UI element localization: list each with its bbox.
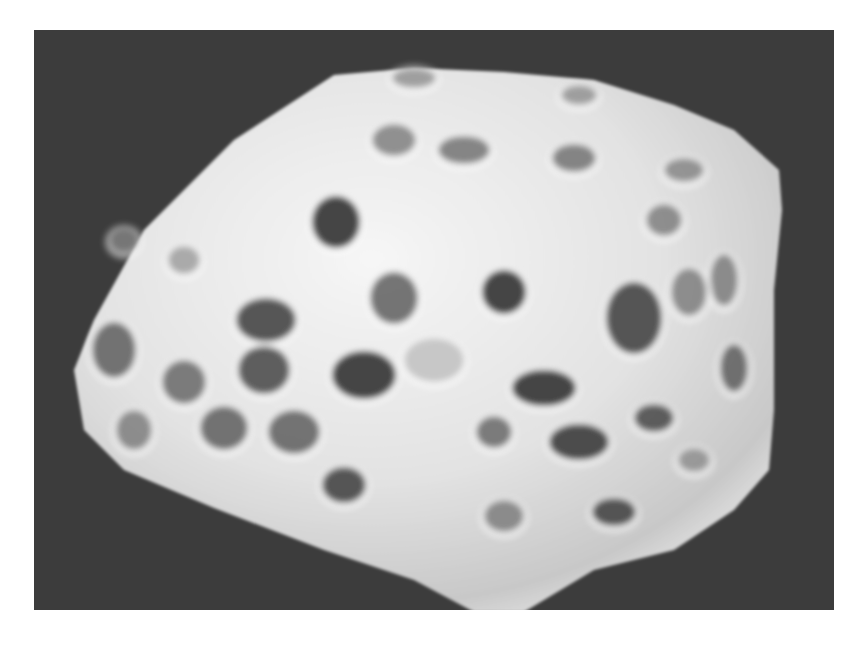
- pore: [392, 68, 436, 88]
- pore: [549, 424, 609, 460]
- pore: [484, 500, 524, 532]
- pore: [720, 344, 748, 392]
- pore: [92, 322, 136, 378]
- pore: [482, 270, 526, 314]
- pore: [236, 298, 296, 342]
- pore: [678, 448, 710, 472]
- pore: [592, 498, 636, 526]
- pore: [116, 410, 152, 450]
- pore: [370, 272, 418, 324]
- pore: [512, 370, 576, 406]
- pore: [162, 360, 206, 404]
- pore: [561, 85, 597, 105]
- micrograph-frame: [34, 30, 834, 610]
- pore: [476, 416, 512, 448]
- pore: [200, 406, 248, 450]
- pore: [671, 268, 707, 316]
- pore: [646, 204, 682, 236]
- pore: [238, 346, 290, 394]
- pore: [710, 254, 738, 306]
- pore: [168, 246, 200, 274]
- pore: [664, 158, 704, 182]
- pore: [634, 404, 674, 432]
- pore: [372, 124, 416, 156]
- pore: [438, 136, 490, 164]
- pore: [404, 338, 464, 382]
- pore: [552, 144, 596, 172]
- pore: [332, 351, 396, 399]
- pore: [606, 282, 662, 354]
- pore: [312, 196, 360, 248]
- pore: [322, 467, 366, 503]
- pore: [110, 228, 138, 252]
- pore: [268, 410, 320, 454]
- particle-micrograph: [34, 30, 834, 610]
